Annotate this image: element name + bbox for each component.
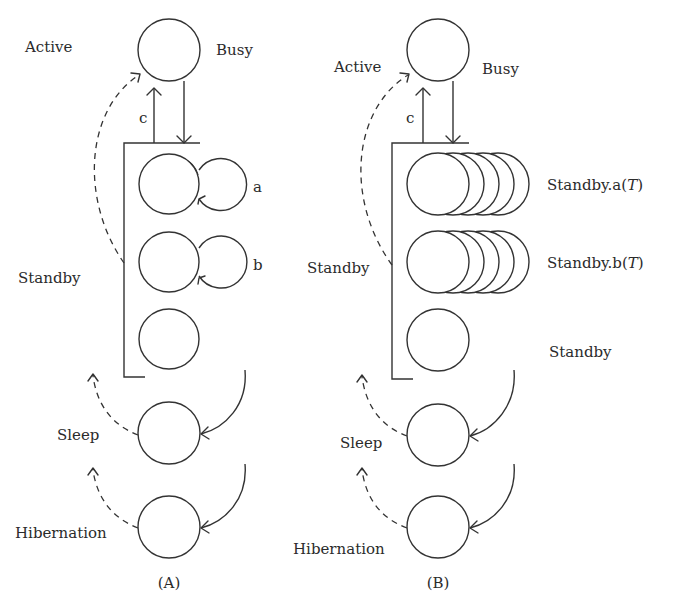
panel-a-caption: (A) xyxy=(158,574,181,592)
transition-c-label: c xyxy=(139,109,147,127)
standby-label: Standby xyxy=(18,269,81,287)
standby-b-label: Standby.b(T) xyxy=(547,254,644,272)
sleep-label: Sleep xyxy=(57,426,99,444)
arrow-head-up-icon xyxy=(357,468,367,475)
hibernation-label: Hibernation xyxy=(15,524,107,542)
hibernation-label: Hibernation xyxy=(293,540,385,558)
busy-label: Busy xyxy=(216,41,253,59)
self-loop-a-arc xyxy=(199,159,247,211)
panel-b: Active Busy c Standby Standby.a(T) Stand… xyxy=(293,19,644,592)
standby-b-stack xyxy=(407,231,529,293)
standby-to-sleep-arrow xyxy=(201,370,245,434)
standby-b-circle xyxy=(139,232,199,292)
sleep-to-hibernation-arrow xyxy=(470,464,514,528)
active-state-circle xyxy=(138,19,200,81)
arrow-head-icon xyxy=(400,73,409,82)
loop-a-label: a xyxy=(253,178,262,196)
arrow-head-up-icon xyxy=(357,375,367,382)
active-label: Active xyxy=(333,58,382,76)
standby-plain-label: Standby xyxy=(549,343,612,361)
standby-wake-dashed-arrow xyxy=(94,75,139,263)
transition-c-label: c xyxy=(406,109,414,127)
arrow-head-up-icon xyxy=(88,374,98,381)
hibernation-state-circle xyxy=(138,496,200,558)
sleep-wake-dashed-arrow xyxy=(93,376,138,435)
standby-to-sleep-arrow xyxy=(470,370,514,436)
busy-label: Busy xyxy=(482,60,519,78)
standby-a-circle xyxy=(139,154,199,214)
standby-a-stack xyxy=(407,153,529,215)
hibernation-wake-dashed-arrow xyxy=(362,470,407,528)
standby-a-label: Standby.a(T) xyxy=(547,176,643,194)
sleep-wake-dashed-arrow xyxy=(362,377,407,436)
sleep-state-circle xyxy=(138,402,200,464)
arrow-head-icon xyxy=(131,73,140,82)
hibernation-state-circle xyxy=(407,496,469,558)
power-state-diagram: Active Busy c Standby a b Sleep xyxy=(0,0,674,615)
panel-a: Active Busy c Standby a b Sleep xyxy=(15,19,263,592)
standby-circle xyxy=(407,309,469,371)
sleep-label: Sleep xyxy=(340,434,382,452)
panel-b-caption: (B) xyxy=(427,574,450,592)
hibernation-wake-dashed-arrow xyxy=(93,470,138,528)
loop-b-label: b xyxy=(253,256,263,274)
sleep-state-circle xyxy=(407,404,469,466)
active-label: Active xyxy=(24,38,73,56)
standby-label: Standby xyxy=(307,259,370,277)
self-loop-b-arc xyxy=(199,236,247,288)
sleep-to-hibernation-arrow xyxy=(201,464,245,528)
active-state-circle xyxy=(407,19,469,81)
standby-circle xyxy=(139,309,199,369)
standby-wake-dashed-arrow xyxy=(361,75,408,265)
arrow-head-up-icon xyxy=(88,468,98,475)
